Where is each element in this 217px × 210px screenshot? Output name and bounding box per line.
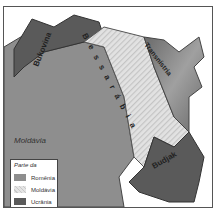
legend-item-ucrania: Ucrânia <box>14 198 52 205</box>
legend-swatch-romania <box>14 174 26 181</box>
map-frame: Bukovina Bessarábia Transnístria Budjak … <box>3 6 213 208</box>
legend-swatch-moldavia <box>14 186 26 193</box>
legend-label: Ucrânia <box>31 199 52 205</box>
map-legend: Parte da Romênia Moldávia Ucrânia <box>10 159 58 208</box>
legend-swatch-ucrania <box>14 198 26 205</box>
legend-title: Parte da <box>14 162 37 168</box>
legend-label: Moldávia <box>31 187 55 193</box>
legend-item-moldavia: Moldávia <box>14 186 55 193</box>
legend-label: Romênia <box>31 175 55 181</box>
legend-item-romania: Romênia <box>14 174 55 181</box>
country-label: Moldávia <box>14 136 46 145</box>
